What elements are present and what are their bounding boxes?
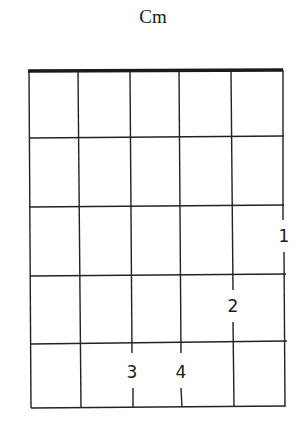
chord-grid: 1 2 3 4 [0,0,306,433]
string-1 [29,71,31,408]
nut [28,70,283,71]
string-3 [130,71,132,353]
finger-1-label: 1 [279,226,290,246]
string-2 [78,71,81,408]
string-lines [29,70,285,408]
finger-2-label: 2 [228,296,239,316]
fret-lines [29,136,287,408]
string-4 [179,70,181,353]
string-5 [231,70,233,290]
finger-3-label: 3 [127,362,138,382]
finger-4-label: 4 [176,362,187,382]
